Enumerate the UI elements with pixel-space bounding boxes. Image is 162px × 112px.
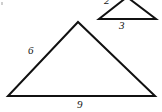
geometry-figure: 6 9 3 2 bbox=[0, 0, 162, 112]
small-triangle-left-side-label: 2 bbox=[104, 0, 110, 6]
large-triangle bbox=[8, 22, 155, 96]
large-triangle-outline bbox=[8, 22, 155, 96]
small-triangle-base-label: 3 bbox=[119, 20, 125, 31]
large-triangle-left-side-label: 6 bbox=[28, 45, 34, 56]
figure-canvas bbox=[0, 0, 162, 112]
large-triangle-base-label: 9 bbox=[77, 99, 83, 110]
